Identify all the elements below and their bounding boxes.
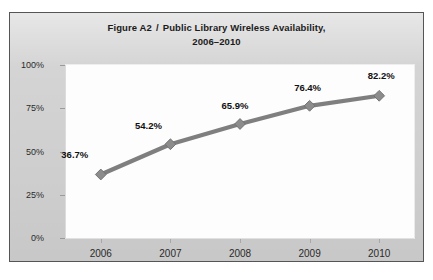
- x-axis-tick: [170, 239, 171, 243]
- y-axis-tick: [60, 108, 65, 109]
- y-axis-tick: [60, 238, 65, 239]
- x-axis-tick: [101, 239, 102, 243]
- series-plot: [66, 65, 414, 238]
- data-point-label: 36.7%: [50, 149, 100, 160]
- y-axis-tick-label: 75%: [4, 103, 44, 113]
- y-axis-tick-label: 50%: [4, 147, 44, 157]
- series-marker: [304, 100, 315, 111]
- y-axis-tick-label: 25%: [4, 190, 44, 200]
- y-axis-tick: [60, 65, 65, 66]
- data-point-label: 65.9%: [210, 100, 260, 111]
- x-axis-tick: [379, 239, 380, 243]
- x-axis-tick-label: 2010: [349, 248, 409, 260]
- screenshot-root: Figure A2/Public Library Wireless Availa…: [0, 0, 433, 280]
- data-point-label: 76.4%: [283, 82, 333, 93]
- data-point-label: 54.2%: [123, 120, 173, 131]
- series-marker: [235, 119, 246, 130]
- figure-label: Figure A2: [108, 22, 152, 33]
- x-axis-tick: [240, 239, 241, 243]
- series-marker: [374, 90, 385, 101]
- x-axis-tick: [310, 239, 311, 243]
- y-axis-tick-label: 100%: [4, 60, 44, 70]
- x-axis-tick-label: 2007: [140, 248, 200, 260]
- x-axis-tick-label: 2008: [210, 248, 270, 260]
- title-text-line1: Public Library Wireless Availability,: [163, 22, 326, 33]
- figure-frame: Figure A2/Public Library Wireless Availa…: [9, 12, 424, 262]
- chart-title: Figure A2/Public Library Wireless Availa…: [10, 21, 423, 49]
- plot-area: [66, 65, 414, 238]
- x-axis-tick-label: 2006: [71, 248, 131, 260]
- x-axis-tick-label: 2009: [280, 248, 340, 260]
- data-point-label: 82.2%: [356, 70, 406, 81]
- title-text-line2: 2006–2010: [10, 35, 423, 49]
- y-axis-tick-label: 0%: [4, 233, 44, 243]
- title-separator: /: [152, 22, 163, 33]
- y-axis-tick: [60, 195, 65, 196]
